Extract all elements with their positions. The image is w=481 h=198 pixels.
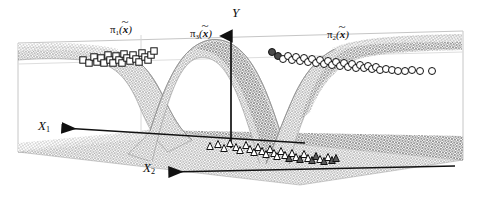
data-point-class-2 [417, 68, 424, 75]
axis-label-x1: X1 [38, 119, 50, 134]
surface-label-pi1: π1(x) [110, 24, 132, 36]
data-point-class-2 [409, 67, 416, 74]
data-point-class-1 [136, 59, 142, 65]
data-point-class-1 [86, 60, 92, 66]
figure-canvas: π1(x) π3(x) π2(x) Y X1 X2 [0, 0, 481, 198]
data-point-class-2 [429, 68, 436, 75]
data-point-class-1 [80, 57, 86, 63]
data-point-class-1 [127, 58, 133, 64]
data-point-class-1 [101, 60, 107, 66]
data-point-class-1 [151, 48, 157, 54]
axis-label-x2: X2 [143, 161, 155, 176]
surface-label-pi2: π2(x) [327, 29, 349, 41]
data-point-class-1 [110, 60, 116, 66]
data-point-class-2 [395, 68, 402, 75]
axis-label-y: Y [232, 6, 239, 19]
surface-plot-svg [0, 0, 481, 198]
data-point-class-2 [402, 68, 409, 75]
surface-label-pi3: π3(x) [190, 28, 212, 40]
